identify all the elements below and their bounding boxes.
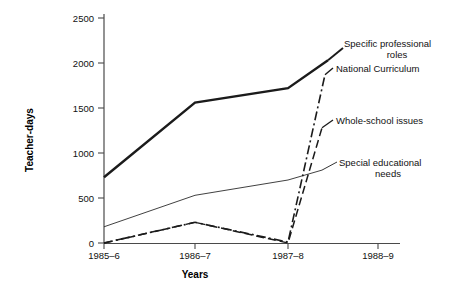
series-special-educational-needs <box>104 170 322 227</box>
series-specific-professional-roles <box>104 60 328 177</box>
x-axis-title: Years <box>182 269 209 280</box>
y-tick-label-1000: 1000 <box>73 148 94 159</box>
annotation-label-specific-roles-line1: Specific professional <box>344 38 431 49</box>
y-tick-label-0: 0 <box>89 238 94 249</box>
leader-specific-professional-roles <box>328 48 343 60</box>
annotation-special-educational-needs: Special educational needs <box>339 157 421 179</box>
y-axis-title: Teacher-days <box>24 108 35 172</box>
teacher-days-line-chart: 2500 2000 1500 1000 500 0 1985–6 1986–7 … <box>0 0 471 293</box>
annotation-label-whole-school-issues: Whole-school issues <box>336 115 423 126</box>
leader-national-curriculum <box>325 68 333 75</box>
annotation-label-special-needs-line1: Special educational <box>339 157 421 168</box>
x-tick-label-1985-6: 1985–6 <box>88 250 120 261</box>
y-tick-label-500: 500 <box>78 193 94 204</box>
x-tick-label-1987-8: 1987–8 <box>272 250 304 261</box>
leader-whole-school-issues <box>322 120 333 128</box>
x-tick-labels: 1985–6 1986–7 1987–8 1988–9 <box>88 250 394 261</box>
y-tick-label-2500: 2500 <box>73 13 94 24</box>
annotation-specific-professional-roles: Specific professional roles <box>344 38 431 60</box>
annotation-label-specific-roles-line2: roles <box>387 49 408 60</box>
annotation-label-special-needs-line2: needs <box>375 168 401 179</box>
y-tick-marks <box>98 18 104 243</box>
x-tick-label-1986-7: 1986–7 <box>179 250 211 261</box>
x-tick-marks <box>104 244 378 250</box>
annotation-label-national-curriculum: National Curriculum <box>336 63 420 74</box>
y-tick-labels: 2500 2000 1500 1000 500 0 <box>73 13 94 249</box>
x-tick-label-1988-9: 1988–9 <box>362 250 394 261</box>
y-tick-label-1500: 1500 <box>73 103 94 114</box>
y-tick-label-2000: 2000 <box>73 58 94 69</box>
leader-special-educational-needs <box>322 162 337 170</box>
chart-page: 2500 2000 1500 1000 500 0 1985–6 1986–7 … <box>0 0 471 293</box>
